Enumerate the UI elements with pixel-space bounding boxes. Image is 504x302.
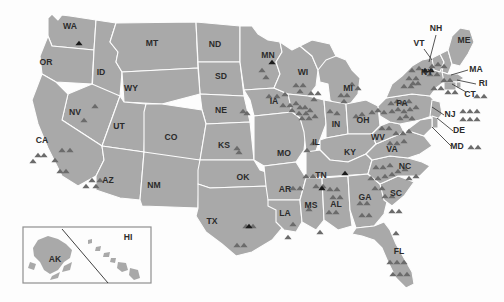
state-label-nm: NM	[147, 180, 160, 190]
state-label-ct: CT	[464, 89, 476, 99]
state-label-al: AL	[330, 199, 341, 209]
location-marker-gray[interactable]	[466, 109, 473, 114]
state-me[interactable]	[448, 28, 474, 66]
location-marker-gray[interactable]	[40, 153, 47, 158]
state-label-ma: MA	[469, 64, 482, 74]
state-label-tx: TX	[207, 216, 218, 226]
location-marker-gray[interactable]	[480, 94, 487, 99]
state-label-in: IN	[332, 119, 341, 129]
state-ct[interactable]	[444, 82, 456, 90]
state-label-ri: RI	[479, 78, 488, 88]
state-label-nv: NV	[69, 107, 81, 117]
state-ar[interactable]	[264, 162, 306, 200]
state-label-sd: SD	[215, 71, 227, 81]
location-marker-gray[interactable]	[82, 184, 89, 189]
state-label-wi: WI	[298, 67, 309, 77]
state-label-wy: WY	[124, 83, 138, 93]
state-label-tn: TN	[315, 170, 326, 180]
state-label-va: VA	[386, 144, 397, 154]
inset-label-hi: HI	[124, 232, 133, 242]
location-marker-gray[interactable]	[466, 117, 473, 122]
state-label-fl: FL	[394, 246, 405, 256]
state-ok[interactable]	[198, 160, 268, 188]
state-fl[interactable]	[352, 222, 414, 288]
location-marker-gray[interactable]	[473, 117, 480, 122]
state-label-or: OR	[40, 57, 54, 67]
state-label-az: AZ	[102, 175, 113, 185]
location-marker-gray[interactable]	[459, 109, 466, 114]
state-label-nj: NJ	[445, 109, 456, 119]
location-marker-gray[interactable]	[395, 209, 402, 214]
state-label-ga: GA	[359, 192, 372, 202]
location-marker-gray[interactable]	[473, 109, 480, 114]
state-label-vt: VT	[414, 38, 426, 48]
state-az[interactable]	[96, 146, 144, 200]
location-marker-gray[interactable]	[316, 230, 323, 235]
state-label-pa: PA	[396, 98, 407, 108]
alaska-hawaii-inset[interactable]: AKHI	[23, 227, 151, 283]
state-label-ut: UT	[113, 121, 125, 131]
state-label-wv: WV	[371, 132, 385, 142]
state-label-sc: SC	[390, 188, 402, 198]
state-label-me: ME	[458, 35, 471, 45]
state-label-co: CO	[165, 132, 178, 142]
state-label-nc: NC	[399, 161, 411, 171]
state-label-mt: MT	[146, 38, 159, 48]
location-marker-gray[interactable]	[392, 231, 399, 236]
state-label-la: LA	[279, 208, 290, 218]
state-label-ar: AR	[279, 184, 292, 194]
state-de[interactable]	[432, 116, 438, 128]
state-label-oh: OH	[357, 115, 370, 125]
us-distribution-map: WAORIDMTNDSDWYNVUTCONEKSCAAZNMOKTXMNIAWI…	[0, 0, 504, 302]
state-label-wa: WA	[63, 21, 77, 31]
md-leader	[432, 127, 451, 146]
state-label-nh: NH	[430, 23, 442, 33]
location-marker-gray[interactable]	[284, 235, 291, 240]
de-leader	[437, 118, 453, 131]
state-label-id: ID	[97, 67, 106, 77]
state-label-ky: KY	[344, 147, 356, 157]
ma-leader	[451, 70, 468, 75]
state-label-ms: MS	[305, 200, 318, 210]
state-label-ny: NY	[421, 67, 433, 77]
state-label-ia: IA	[270, 96, 279, 106]
location-marker-gray[interactable]	[474, 145, 481, 150]
location-marker-gray[interactable]	[34, 153, 41, 158]
location-marker-gray[interactable]	[467, 145, 474, 150]
inset-label-ak: AK	[49, 254, 62, 264]
location-marker-gray[interactable]	[314, 91, 321, 96]
state-label-ks: KS	[218, 140, 230, 150]
state-label-nd: ND	[209, 39, 221, 49]
state-label-md: MD	[450, 141, 463, 151]
state-label-mo: MO	[277, 148, 291, 158]
state-label-ok: OK	[237, 172, 251, 182]
state-label-mi: MI	[343, 83, 353, 93]
state-label-de: DE	[453, 125, 465, 135]
state-label-ne: NE	[215, 105, 227, 115]
state-label-mn: MN	[261, 50, 274, 60]
state-label-il: IL	[312, 137, 320, 147]
map-svg: WAORIDMTNDSDWYNVUTCONEKSCAAZNMOKTXMNIAWI…	[0, 0, 504, 302]
state-label-ca: CA	[36, 135, 48, 145]
state-wa[interactable]	[48, 14, 96, 50]
location-marker-gray[interactable]	[29, 159, 36, 164]
location-marker-gray[interactable]	[388, 209, 395, 214]
location-marker-gray[interactable]	[459, 117, 466, 122]
